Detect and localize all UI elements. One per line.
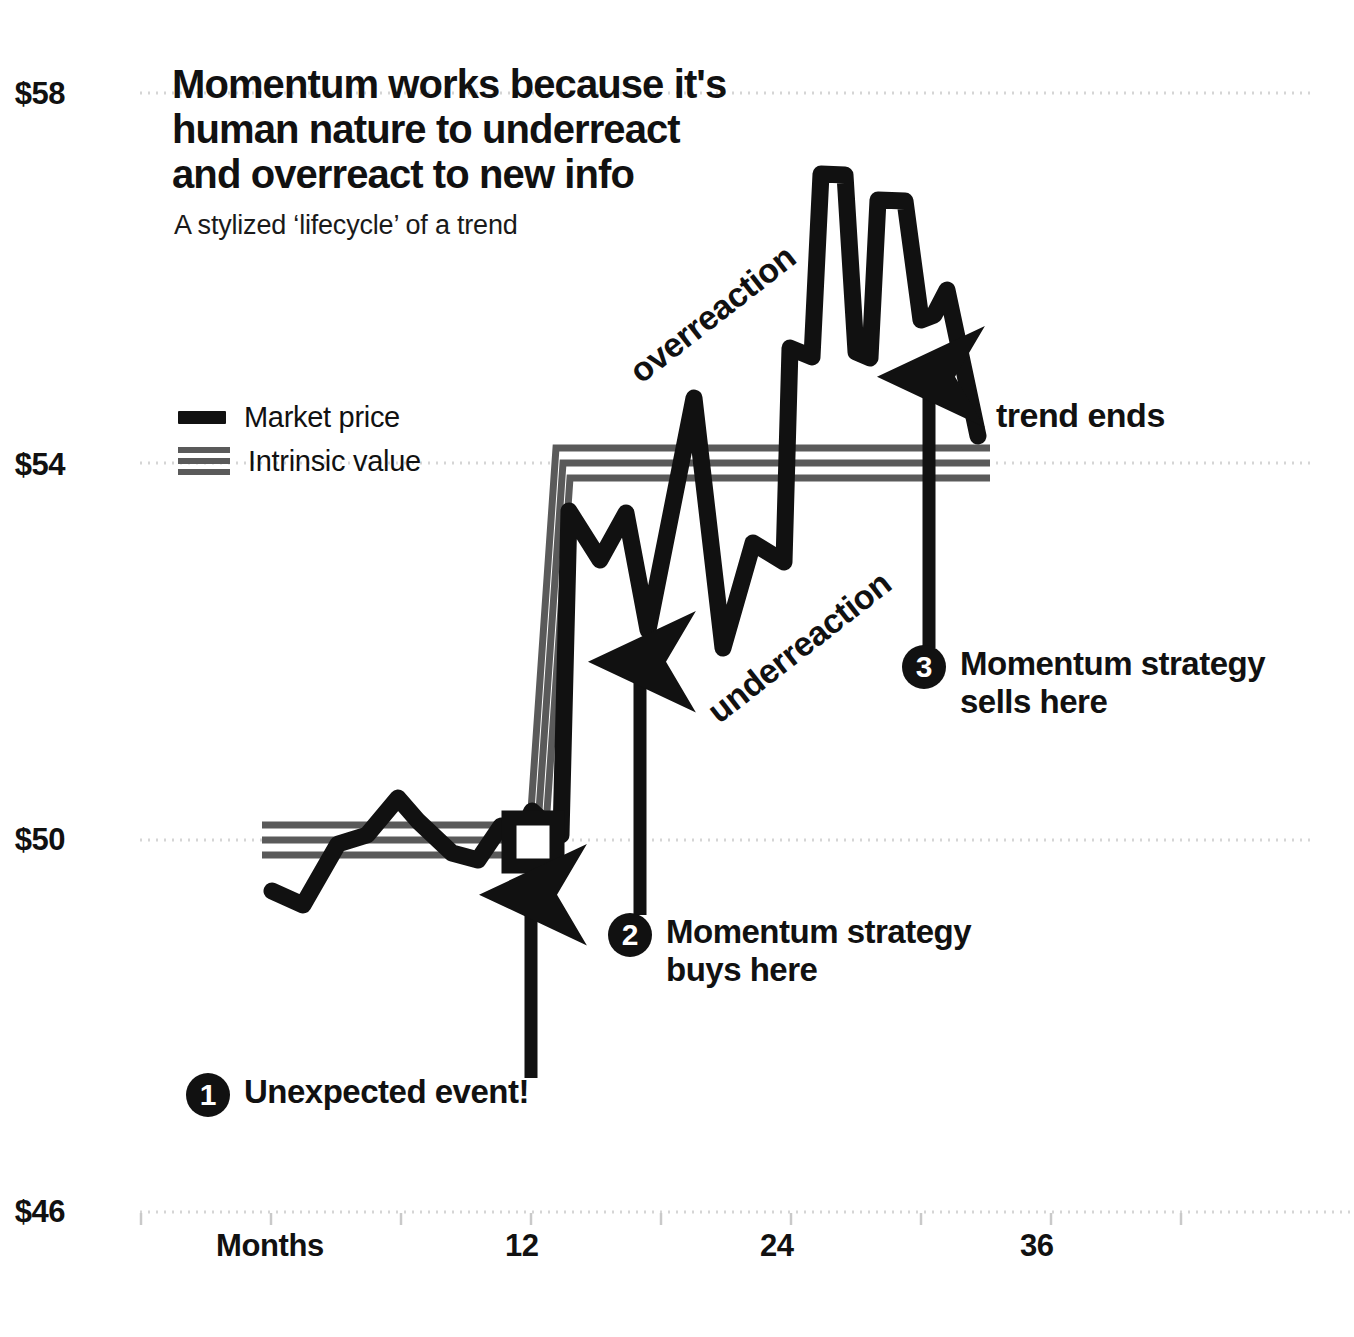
event-marker-square — [509, 818, 557, 866]
legend-item-market-price[interactable]: Market price — [178, 395, 421, 439]
callout-3-momentum-sells: 3 Momentum strategy sells here — [902, 645, 1265, 720]
legend-label-market-price: Market price — [244, 401, 400, 434]
chart-title: Momentum works because it's human nature… — [172, 62, 812, 196]
series-market-price — [272, 174, 978, 905]
callout-1-unexpected-event: 1 Unexpected event! — [186, 1073, 529, 1117]
legend-label-intrinsic-value: Intrinsic value — [248, 445, 421, 478]
callout-text-3: Momentum strategy sells here — [960, 645, 1265, 720]
banded-line-swatch-icon — [178, 447, 230, 475]
callout-text-1: Unexpected event! — [244, 1073, 529, 1111]
chart-subtitle: A stylized ‘lifecycle’ of a trend — [174, 210, 814, 241]
callout-number-badge-2: 2 — [608, 913, 652, 957]
x-axis-tick-36: 36 — [1020, 1228, 1054, 1264]
y-axis-tick-58: $58 — [0, 76, 65, 112]
y-axis-tick-50: $50 — [0, 822, 65, 858]
y-axis-tick-46: $46 — [0, 1194, 65, 1230]
chart-canvas: $58 $54 $50 $46 Momentum works because i… — [0, 0, 1354, 1337]
callout-text-2: Momentum strategy buys here — [666, 913, 971, 988]
solid-line-swatch-icon — [178, 411, 226, 424]
callout-number-badge-3: 3 — [902, 645, 946, 689]
y-axis-tick-54: $54 — [0, 447, 65, 483]
x-axis-tick-24: 24 — [760, 1228, 794, 1264]
x-axis-ticks — [141, 1213, 1181, 1225]
legend-item-intrinsic-value[interactable]: Intrinsic value — [178, 439, 421, 483]
callout-2-momentum-buys: 2 Momentum strategy buys here — [608, 913, 971, 988]
callout-number-badge-1: 1 — [186, 1073, 230, 1117]
legend: Market price Intrinsic value — [178, 395, 421, 483]
x-axis-tick-12: 12 — [505, 1228, 539, 1264]
annotation-trend-ends: trend ends — [996, 396, 1165, 435]
x-axis-label: Months — [216, 1228, 324, 1264]
